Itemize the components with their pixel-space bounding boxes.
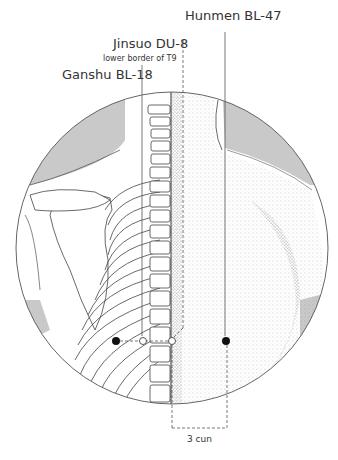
label-jinsuo: Jinsuo DU-8 (113, 36, 188, 51)
point-jinsuo-open (169, 338, 176, 345)
label-measure: 3 cun (187, 434, 212, 444)
shaded-background-left (0, 80, 125, 200)
label-hunmen: Hunmen BL-47 (185, 8, 281, 23)
point-hunmen-filled (222, 337, 230, 345)
vertebrae (148, 105, 170, 402)
anatomy-illustration (0, 0, 338, 460)
point-ganshu-open (140, 338, 147, 345)
scapula (50, 194, 112, 330)
label-ganshu: Ganshu BL-18 (62, 67, 153, 82)
point-ganshu-filled (112, 337, 120, 345)
label-jinsuo-note: lower border of T9 (103, 54, 177, 63)
